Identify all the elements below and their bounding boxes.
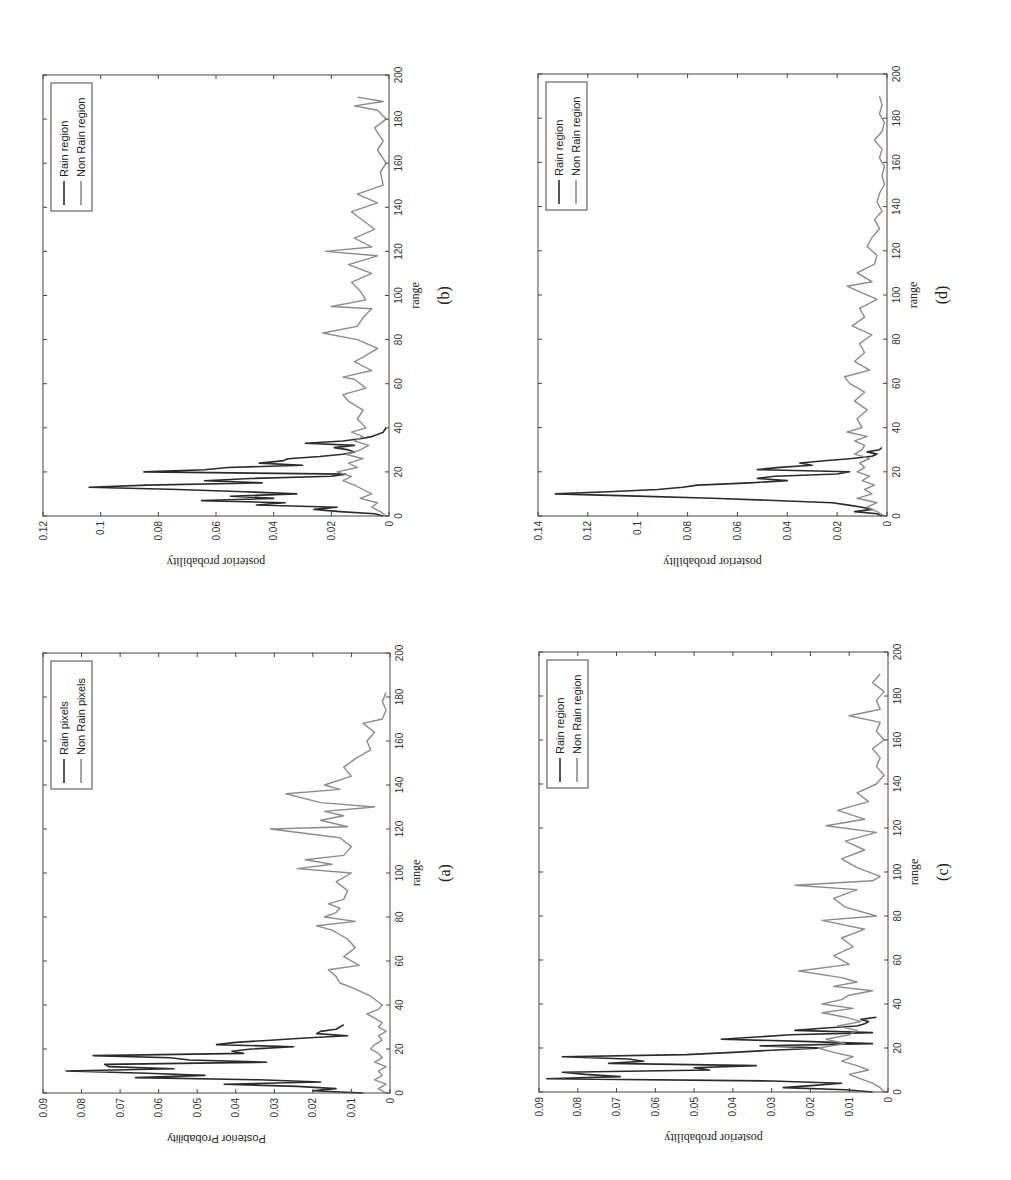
y-axis-label: posterior probability <box>664 1131 762 1145</box>
x-tick-label: 200 <box>892 643 903 660</box>
legend: Rain pixelsNon Rain pixels <box>51 661 92 789</box>
x-axis-label: range <box>408 282 422 309</box>
x-tick-label: 100 <box>891 286 902 303</box>
plot-area: 02040608010012014016018020000.010.020.03… <box>534 643 953 1145</box>
series-line-rain <box>547 1017 877 1092</box>
y-tick-label: 0.06 <box>211 521 222 541</box>
x-tick-label: 180 <box>393 110 404 127</box>
y-axis-label: posterior probability <box>663 555 761 569</box>
x-tick-label: 60 <box>394 955 405 967</box>
x-tick-label: 100 <box>393 287 404 304</box>
x-tick-label: 60 <box>891 377 902 389</box>
plot-area: 02040608010012014016018020000.020.040.06… <box>38 66 454 569</box>
chart-panel-d: 02040608010012014016018020000.020.040.06… <box>533 65 952 569</box>
y-tick-label: 0.06 <box>732 521 743 541</box>
chart-panel-b: 02040608010012014016018020000.020.040.06… <box>38 66 454 569</box>
x-tick-label: 140 <box>891 198 902 215</box>
x-tick-label: 100 <box>892 863 903 880</box>
x-tick-label: 140 <box>394 776 405 793</box>
legend: Rain regionNon Rain region <box>547 660 588 788</box>
x-axis-label: range <box>409 860 423 887</box>
x-axis-label: range <box>907 859 921 886</box>
x-tick-label: 200 <box>393 66 404 83</box>
x-tick-label: 20 <box>394 1043 405 1055</box>
x-tick-label: 40 <box>393 422 404 434</box>
legend-label: Non Rain pixels <box>75 677 87 755</box>
x-tick-label: 80 <box>892 910 903 922</box>
y-tick-label: 0.02 <box>832 521 843 541</box>
x-tick-label: 160 <box>892 731 903 748</box>
x-tick-label: 140 <box>393 199 404 216</box>
y-tick-label: 0 <box>882 521 893 527</box>
x-tick-label: 40 <box>394 999 405 1011</box>
x-tick-label: 20 <box>892 1042 903 1054</box>
y-tick-label: 0.06 <box>650 1097 661 1117</box>
y-tick-label: 0.09 <box>534 1097 545 1117</box>
x-tick-label: 180 <box>394 688 405 705</box>
y-tick-label: 0.02 <box>326 521 337 541</box>
y-tick-label: 0.04 <box>230 1098 241 1118</box>
x-tick-label: 120 <box>394 820 405 837</box>
x-tick-label: 80 <box>393 334 404 346</box>
y-axis-label: Posterior Probability <box>167 1133 266 1145</box>
y-tick-label: 0.04 <box>782 521 793 541</box>
series-line-rain <box>66 1025 363 1093</box>
y-tick-label: 0.07 <box>611 1097 622 1117</box>
y-tick-label: 0 <box>384 521 395 527</box>
y-tick-label: 0.04 <box>727 1097 738 1117</box>
x-tick-label: 180 <box>891 109 902 126</box>
x-tick-label: 0 <box>394 1090 405 1096</box>
chart-panel-c: 02040608010012014016018020000.010.020.03… <box>534 643 953 1145</box>
x-tick-label: 180 <box>892 687 903 704</box>
x-tick-label: 80 <box>891 333 902 345</box>
y-axis-label: posterior probability <box>167 555 265 569</box>
x-tick-label: 160 <box>394 732 405 749</box>
x-tick-label: 0 <box>393 513 404 519</box>
series-line-rain <box>89 428 386 516</box>
series-line-non-rain <box>271 693 387 1093</box>
y-tick-label: 0.05 <box>689 1097 700 1117</box>
x-tick-label: 0 <box>891 513 902 519</box>
panel-caption: (c) <box>934 863 952 881</box>
x-tick-label: 0 <box>892 1089 903 1095</box>
y-tick-label: 0.03 <box>269 1098 280 1118</box>
legend-label: Rain pixels <box>58 701 70 755</box>
series-line-non-rain <box>845 96 885 516</box>
x-tick-label: 100 <box>394 864 405 881</box>
y-tick-label: 0.02 <box>805 1097 816 1117</box>
y-tick-label: 0.12 <box>582 521 593 541</box>
y-tick-label: 0.08 <box>682 521 693 541</box>
y-tick-label: 0.12 <box>38 521 49 541</box>
y-tick-label: 0.02 <box>307 1098 318 1118</box>
panel-caption: (d) <box>933 286 951 305</box>
legend: Rain regionNon Rain region <box>546 82 587 210</box>
x-tick-label: 140 <box>892 775 903 792</box>
series-line-non-rain <box>323 97 386 516</box>
x-tick-label: 40 <box>891 422 902 434</box>
x-tick-label: 200 <box>891 65 902 82</box>
x-tick-label: 160 <box>891 154 902 171</box>
panel-caption: (b) <box>435 286 453 305</box>
y-tick-label: 0.08 <box>153 521 164 541</box>
y-tick-label: 0.06 <box>153 1098 164 1118</box>
x-tick-label: 80 <box>394 911 405 923</box>
panel-caption: (a) <box>436 864 454 882</box>
plot-area: 02040608010012014016018020000.020.040.06… <box>533 65 952 569</box>
legend-label: Non Rain region <box>570 97 582 177</box>
x-tick-label: 120 <box>393 243 404 260</box>
chart-panel-a: 02040608010012014016018020000.010.020.03… <box>38 644 455 1145</box>
axes-box <box>43 75 389 516</box>
plot-area: 02040608010012014016018020000.010.020.03… <box>38 644 455 1145</box>
x-tick-label: 120 <box>891 242 902 259</box>
y-tick-label: 0.04 <box>268 521 279 541</box>
y-tick-label: 0.05 <box>192 1098 203 1118</box>
x-tick-label: 60 <box>892 954 903 966</box>
legend-label: Rain region <box>554 698 566 754</box>
y-tick-label: 0.07 <box>115 1098 126 1118</box>
y-tick-label: 0.1 <box>632 521 643 535</box>
axes-box <box>43 653 390 1093</box>
y-tick-label: 0.03 <box>766 1097 777 1117</box>
x-tick-label: 20 <box>891 466 902 478</box>
x-tick-label: 40 <box>892 998 903 1010</box>
legend-label: Rain region <box>553 120 565 176</box>
